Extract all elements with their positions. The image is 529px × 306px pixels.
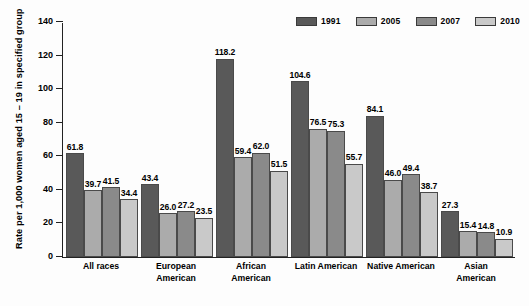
x-category-line: American <box>456 273 496 285</box>
bar-2005-european-american[interactable]: 26.0 <box>159 22 177 257</box>
bar-group-asian-american: 27.315.414.810.9 <box>441 23 513 257</box>
bar-rect <box>495 239 513 257</box>
bar-rect <box>402 174 420 257</box>
bar-value-label: 75.3 <box>328 119 344 129</box>
y-tick-60: 60 <box>56 155 63 156</box>
bar-2005-asian-american[interactable]: 15.4 <box>459 22 477 257</box>
bar-value-label: 43.4 <box>142 173 158 183</box>
bar-rect <box>327 131 345 257</box>
x-category-line: European <box>156 261 196 273</box>
y-tick-100: 100 <box>56 88 63 89</box>
y-axis-title: Rate per 1,000 women aged 15 – 19 in spe… <box>14 9 24 249</box>
bar-value-label: 46.0 <box>385 168 401 178</box>
bar-value-label: 34.4 <box>121 188 137 198</box>
bar-1991-asian-american[interactable]: 27.3 <box>441 22 459 257</box>
bar-group-latin-american: 104.676.575.355.7 <box>291 23 363 257</box>
bar-value-label: 62.0 <box>253 141 269 151</box>
x-category-label-european-american: EuropeanAmerican <box>156 261 196 284</box>
bar-2010-african-american[interactable]: 51.5 <box>270 22 288 257</box>
bar-2007-european-american[interactable]: 27.2 <box>177 22 195 257</box>
bar-rect <box>270 171 288 257</box>
bar-1991-all-races[interactable]: 61.8 <box>66 22 84 257</box>
bar-value-label: 118.2 <box>215 47 236 57</box>
bar-rect <box>66 153 84 257</box>
bar-2007-native-american[interactable]: 49.4 <box>402 22 420 257</box>
bar-rect <box>309 129 327 257</box>
bar-2010-all-races[interactable]: 34.4 <box>120 22 138 257</box>
bar-rect <box>291 81 309 257</box>
bar-2005-all-races[interactable]: 39.7 <box>84 22 102 257</box>
y-tick-label-60: 60 <box>43 150 53 160</box>
bar-rect <box>141 184 159 257</box>
bar-value-label: 26.0 <box>160 202 176 212</box>
y-tick-0: 0 <box>56 256 63 257</box>
bar-rect <box>459 231 477 257</box>
bar-value-label: 104.6 <box>289 70 310 80</box>
bar-rect <box>120 199 138 257</box>
bar-2010-european-american[interactable]: 23.5 <box>195 22 213 257</box>
bar-1991-african-american[interactable]: 118.2 <box>216 22 234 257</box>
bar-value-label: 15.4 <box>460 220 476 230</box>
bar-rect <box>216 59 234 257</box>
y-tick-label-0: 0 <box>48 251 53 261</box>
bar-value-label: 59.4 <box>235 146 251 156</box>
x-axis-labels: All racesEuropeanAmericanAfricanAmerican… <box>62 261 515 305</box>
x-category-line: Latin American <box>295 261 357 273</box>
bar-group-all-races: 61.839.741.534.4 <box>66 23 138 257</box>
bar-value-label: 27.3 <box>442 200 458 210</box>
x-category-line: Asian <box>456 261 496 273</box>
y-tick-80: 80 <box>56 122 63 123</box>
bar-2007-african-american[interactable]: 62.0 <box>252 22 270 257</box>
bar-2005-latin-american[interactable]: 76.5 <box>309 22 327 257</box>
y-tick-140: 140 <box>56 21 63 22</box>
bar-rect <box>159 213 177 257</box>
bar-2005-african-american[interactable]: 59.4 <box>234 22 252 257</box>
bar-1991-latin-american[interactable]: 104.6 <box>291 22 309 257</box>
x-category-label-latin-american: Latin American <box>295 261 357 273</box>
bar-value-label: 38.7 <box>421 181 437 191</box>
bar-group-native-american: 84.146.049.438.7 <box>366 23 438 257</box>
bar-rect <box>441 211 459 257</box>
bar-2010-native-american[interactable]: 38.7 <box>420 22 438 257</box>
x-category-label-native-american: Native American <box>367 261 435 273</box>
bar-chart: 1991200520072010 Rate per 1,000 women ag… <box>0 0 529 306</box>
x-category-line: African <box>231 261 271 273</box>
bar-rect <box>84 190 102 257</box>
y-tick-label-20: 20 <box>43 217 53 227</box>
bar-value-label: 61.8 <box>67 142 83 152</box>
y-tick-label-120: 120 <box>38 50 53 60</box>
bar-rect <box>177 211 195 257</box>
y-tick-40: 40 <box>56 189 63 190</box>
y-tick-label-40: 40 <box>43 184 53 194</box>
bar-value-label: 76.5 <box>310 117 326 127</box>
x-category-line: All races <box>83 261 119 273</box>
bar-value-label: 23.5 <box>196 206 212 216</box>
bar-2010-latin-american[interactable]: 55.7 <box>345 22 363 257</box>
bar-value-label: 49.4 <box>403 163 419 173</box>
bar-2010-asian-american[interactable]: 10.9 <box>495 22 513 257</box>
bar-2007-asian-american[interactable]: 14.8 <box>477 22 495 257</box>
bar-rect <box>234 157 252 257</box>
bar-value-label: 27.2 <box>178 200 194 210</box>
bar-rect <box>102 187 120 257</box>
x-category-line: Native American <box>367 261 435 273</box>
bar-rect <box>252 153 270 257</box>
bar-value-label: 14.8 <box>478 221 494 231</box>
y-tick-label-140: 140 <box>38 16 53 26</box>
bar-1991-european-american[interactable]: 43.4 <box>141 22 159 257</box>
y-tick-20: 20 <box>56 222 63 223</box>
bar-rect <box>420 192 438 257</box>
x-category-line: American <box>156 273 196 285</box>
bar-value-label: 55.7 <box>346 152 362 162</box>
x-category-label-all-races: All races <box>83 261 119 273</box>
bar-2007-all-races[interactable]: 41.5 <box>102 22 120 257</box>
bar-group-european-american: 43.426.027.223.5 <box>141 23 213 257</box>
bar-value-label: 84.1 <box>367 104 383 114</box>
x-category-line: American <box>231 273 271 285</box>
bar-value-label: 41.5 <box>103 176 119 186</box>
bar-rect <box>195 218 213 257</box>
bar-1991-native-american[interactable]: 84.1 <box>366 22 384 257</box>
bar-2007-latin-american[interactable]: 75.3 <box>327 22 345 257</box>
bar-2005-native-american[interactable]: 46.0 <box>384 22 402 257</box>
y-tick-label-100: 100 <box>38 83 53 93</box>
